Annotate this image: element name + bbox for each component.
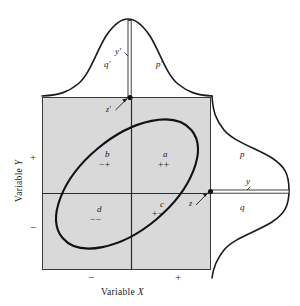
quadrant-d-letter: d — [97, 205, 102, 214]
top-ordinate-bar — [128, 21, 131, 98]
y-axis-title-prefix: Variable — [14, 168, 24, 202]
top-left-area-label: q' — [104, 60, 110, 69]
right-lower-area-label: q — [240, 203, 245, 212]
quadrant-b-signs: −+ — [99, 161, 111, 171]
quadrant-c-letter: c — [160, 200, 164, 209]
quadrant-a-letter: a — [163, 150, 168, 159]
x-axis-title-prefix: Variable — [101, 287, 135, 297]
y-axis-title-variable: Y — [14, 160, 24, 166]
x-tick-minus: − — [88, 272, 94, 283]
y-axis-title: Variable Y — [15, 139, 25, 223]
y-tick-minus: − — [30, 222, 36, 233]
top-normal-curve — [42, 19, 212, 96]
quadrant-a-signs: ++ — [158, 161, 170, 171]
figure-graphics — [0, 0, 300, 306]
right-ordinate-leader — [247, 187, 251, 191]
quadrant-d-signs: −− — [90, 216, 102, 226]
right-upper-area-label: p — [240, 150, 245, 159]
z-prime-label: z' — [106, 106, 111, 114]
y-tick-plus: + — [30, 152, 36, 163]
right-ordinate-bar — [212, 190, 290, 193]
x-axis-title-variable: X — [138, 287, 144, 297]
right-ordinate-label: y — [246, 177, 250, 186]
z-label: z — [189, 200, 192, 208]
figure-root: q' p' y' z' p q y z a ++ b −+ c +− d −− … — [0, 0, 300, 306]
quadrant-c-signs: +− — [152, 210, 164, 220]
x-tick-plus: + — [175, 272, 181, 283]
x-axis-title: Variable X — [101, 288, 144, 298]
top-right-area-label: p' — [156, 60, 162, 69]
top-ordinate-leader — [125, 53, 129, 57]
quadrant-b-letter: b — [105, 150, 110, 159]
top-ordinate-label: y' — [115, 47, 121, 56]
